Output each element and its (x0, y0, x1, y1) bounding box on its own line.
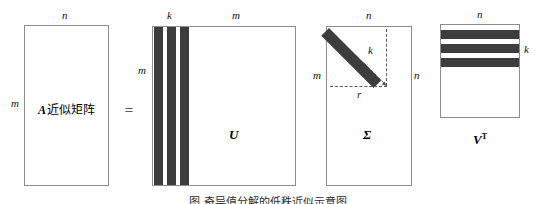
matrix-vt-name-superscript: T (482, 132, 487, 141)
matrix-a-inner-label: A近似矩阵 (24, 103, 109, 117)
sigma-diagonal-band (321, 28, 381, 88)
matrix-a-top-dimension-label: n (62, 10, 68, 21)
matrix-sigma-name-label: Σ (363, 128, 371, 141)
figure-caption: 图 奇异值分解的低秩近似示意图 (0, 196, 536, 204)
matrix-a-left-dimension-label: m (11, 98, 19, 109)
matrix-vt-right-dimension-label: k (524, 44, 529, 55)
matrix-vt-name-base: V (473, 132, 482, 147)
matrix-sigma-base-rank-label: r (357, 89, 361, 100)
matrix-sigma-top-dimension-label: n (366, 10, 372, 21)
matrix-u-rank-dimension-label: k (167, 10, 172, 21)
matrix-u-stripe (180, 27, 189, 185)
matrix-sigma-left-dimension-label: m (313, 70, 321, 81)
matrix-vt-stripe (441, 58, 519, 67)
matrix-vt-name-label: VT (440, 130, 520, 146)
svd-diagram-figure: n m A近似矩阵 = k m m U n m n k r Σ n k VT (0, 0, 536, 204)
matrix-u-top-dimension-label: m (232, 10, 240, 21)
matrix-vt-stripe (441, 44, 519, 53)
matrix-u-stripe (167, 27, 176, 185)
matrix-vt-top-dimension-label: n (477, 9, 483, 20)
matrix-a-inner-han: 近似矩阵 (47, 103, 95, 117)
sigma-dashed-horizontal-line (330, 86, 387, 87)
matrix-a-inner-latin: A (38, 103, 47, 117)
sigma-dashed-vertical-line (386, 29, 387, 86)
matrix-sigma-diagonal-rank-label: k (368, 45, 373, 56)
matrix-u-box (152, 26, 296, 186)
matrix-u-left-dimension-label: m (138, 65, 146, 76)
matrix-vt-box (440, 24, 520, 118)
matrix-u-name-label: U (229, 128, 238, 141)
matrix-sigma-right-dimension-label: n (414, 70, 420, 81)
equals-sign: = (120, 103, 138, 118)
matrix-vt-stripe (441, 30, 519, 39)
matrix-u-stripe (154, 27, 163, 185)
